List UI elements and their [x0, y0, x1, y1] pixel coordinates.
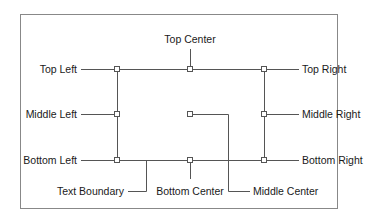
handle-top-center [188, 67, 193, 72]
label-bottom-center: Bottom Center [156, 185, 224, 197]
label-text-boundary: Text Boundary [57, 185, 125, 197]
handle-bottom-center [188, 158, 193, 163]
handle-top-right [262, 67, 267, 72]
label-middle-right: Middle Right [302, 108, 360, 120]
label-bottom-left: Bottom Left [23, 154, 77, 166]
handle-bottom-right [262, 158, 267, 163]
handle-middle-left [115, 112, 120, 117]
handle-middle-center [188, 112, 193, 117]
label-top-center: Top Center [164, 33, 216, 45]
label-bottom-right: Bottom Right [302, 154, 363, 166]
handle-bottom-left [115, 158, 120, 163]
handle-top-left [115, 67, 120, 72]
alignment-diagram: Top Center Top Left Top Right Middle Lef… [0, 0, 378, 223]
label-top-left: Top Left [40, 63, 77, 75]
label-middle-center: Middle Center [253, 185, 319, 197]
label-top-right: Top Right [302, 63, 346, 75]
handle-middle-right [262, 112, 267, 117]
label-middle-left: Middle Left [26, 108, 77, 120]
